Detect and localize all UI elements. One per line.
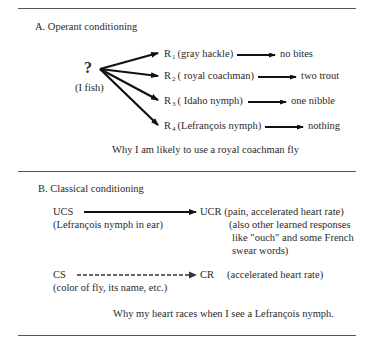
fan-arrows: [100, 53, 158, 125]
arrow-to-r3: [100, 69, 158, 100]
outcome-arrows: [237, 55, 303, 127]
arrow-to-r1: [100, 53, 158, 69]
arrows-overlay: [0, 0, 371, 348]
cs-to-cr-arrowhead: [189, 272, 197, 279]
arrow-to-r4: [100, 69, 158, 125]
